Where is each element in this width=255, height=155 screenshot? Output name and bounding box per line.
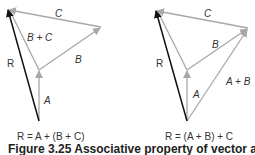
label-a-plus-b-right: A + B [225,76,251,87]
left-diagram: C B + C B R A R = A + (B + C) [7,8,101,142]
label-a-left: A [43,95,51,106]
label-r-left: R [7,58,14,69]
label-c-right: C [204,8,212,19]
figure-caption: Figure 3.25 Associative property of vect… [8,142,255,155]
vector-c-right [157,11,248,28]
label-r-right: R [156,58,163,69]
label-a-right: A [192,89,200,100]
vector-addition-figure: C B + C B R A R = A + (B + C) C B R A + … [0,0,255,155]
label-b-right: B [212,39,219,50]
equation-right: R = (A + B) + C [165,131,233,142]
label-b-left: B [75,54,82,65]
equation-left: R = A + (B + C) [17,131,85,142]
right-diagram: C B R A + B A R = (A + B) + C [156,8,251,142]
label-c-left: C [55,8,63,19]
label-b-plus-c-left: B + C [27,32,53,43]
